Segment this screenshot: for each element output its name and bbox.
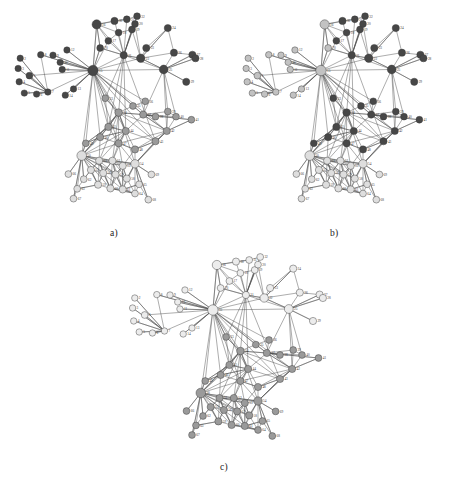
graph-node[interactable]: [254, 397, 262, 405]
graph-node[interactable]: [255, 427, 262, 434]
graph-node[interactable]: [330, 95, 337, 102]
graph-node[interactable]: [305, 151, 315, 161]
graph-node[interactable]: [164, 108, 171, 115]
graph-node[interactable]: [246, 412, 253, 419]
graph-node[interactable]: [132, 295, 138, 301]
graph-node[interactable]: [92, 20, 101, 29]
graph-node[interactable]: [159, 65, 168, 74]
graph-node[interactable]: [359, 146, 366, 153]
graph-node[interactable]: [325, 134, 332, 141]
graph-node[interactable]: [230, 394, 237, 401]
graph-node[interactable]: [391, 127, 398, 134]
graph-node[interactable]: [223, 334, 230, 341]
graph-node[interactable]: [167, 292, 173, 298]
graph-node[interactable]: [273, 89, 279, 95]
graph-node[interactable]: [115, 29, 122, 36]
graph-node[interactable]: [97, 45, 104, 52]
graph-node[interactable]: [370, 98, 377, 105]
graph-node[interactable]: [309, 317, 316, 324]
graph-node[interactable]: [183, 408, 190, 415]
graph-node[interactable]: [302, 185, 309, 192]
graph-node[interactable]: [140, 111, 147, 118]
graph-node[interactable]: [131, 160, 139, 168]
graph-node[interactable]: [254, 383, 261, 390]
graph-node[interactable]: [293, 171, 300, 178]
graph-node[interactable]: [62, 92, 68, 98]
graph-node[interactable]: [105, 37, 112, 44]
graph-node[interactable]: [371, 44, 378, 51]
graph-node[interactable]: [123, 175, 130, 182]
graph-node[interactable]: [45, 89, 51, 95]
graph-node[interactable]: [347, 186, 354, 193]
graph-node[interactable]: [143, 44, 150, 51]
graph-node[interactable]: [100, 169, 107, 176]
graph-node[interactable]: [26, 72, 33, 79]
graph-node[interactable]: [316, 65, 326, 75]
graph-node[interactable]: [95, 181, 102, 188]
graph-node[interactable]: [337, 157, 344, 164]
graph-node[interactable]: [189, 432, 196, 439]
graph-node[interactable]: [401, 113, 408, 120]
graph-node[interactable]: [289, 365, 296, 372]
graph-node[interactable]: [259, 418, 266, 425]
graph-node[interactable]: [226, 278, 233, 285]
graph-node[interactable]: [50, 52, 56, 58]
graph-node[interactable]: [109, 157, 116, 164]
graph-node[interactable]: [122, 127, 129, 134]
graph-node[interactable]: [88, 65, 98, 75]
graph-node[interactable]: [348, 52, 355, 59]
graph-node[interactable]: [257, 254, 264, 261]
graph-node[interactable]: [339, 17, 346, 24]
graph-node[interactable]: [16, 79, 22, 85]
graph-node[interactable]: [175, 299, 181, 305]
graph-node[interactable]: [308, 176, 315, 183]
graph-node[interactable]: [96, 157, 103, 164]
graph-node[interactable]: [290, 92, 296, 98]
graph-node[interactable]: [120, 52, 127, 59]
graph-node[interactable]: [208, 305, 218, 315]
graph-node[interactable]: [177, 306, 183, 312]
graph-node[interactable]: [202, 378, 209, 385]
graph-node[interactable]: [188, 116, 195, 123]
graph-node[interactable]: [119, 186, 126, 193]
graph-node[interactable]: [192, 55, 199, 62]
graph-node[interactable]: [200, 413, 207, 420]
graph-node[interactable]: [212, 260, 221, 269]
graph-node[interactable]: [315, 355, 322, 362]
graph-node[interactable]: [152, 138, 159, 145]
graph-node[interactable]: [33, 91, 39, 97]
graph-node[interactable]: [290, 347, 297, 354]
graph-node[interactable]: [154, 291, 160, 297]
graph-node[interactable]: [237, 347, 245, 355]
graph-node[interactable]: [277, 352, 284, 359]
graph-node[interactable]: [360, 190, 367, 197]
graph-node[interactable]: [180, 331, 186, 337]
graph-node[interactable]: [87, 166, 94, 173]
graph-node[interactable]: [237, 377, 244, 384]
graph-node[interactable]: [228, 421, 235, 428]
graph-node[interactable]: [163, 127, 170, 134]
graph-node[interactable]: [319, 294, 326, 301]
graph-node[interactable]: [196, 388, 206, 398]
graph-node[interactable]: [170, 49, 177, 56]
graph-node[interactable]: [340, 171, 347, 178]
graph-node[interactable]: [411, 78, 418, 85]
graph-node[interactable]: [269, 433, 276, 440]
graph-node[interactable]: [315, 166, 322, 173]
graph-node[interactable]: [136, 329, 142, 335]
graph-node[interactable]: [335, 185, 342, 192]
graph-node[interactable]: [74, 185, 81, 192]
graph-node[interactable]: [364, 181, 371, 188]
graph-node[interactable]: [152, 113, 159, 120]
graph-node[interactable]: [148, 171, 155, 178]
graph-node[interactable]: [131, 318, 137, 324]
graph-node[interactable]: [276, 375, 283, 382]
graph-node[interactable]: [272, 408, 279, 415]
graph-node[interactable]: [189, 325, 195, 331]
graph-node[interactable]: [328, 169, 335, 176]
graph-node[interactable]: [129, 305, 135, 311]
graph-node[interactable]: [298, 86, 304, 92]
graph-node[interactable]: [260, 294, 268, 302]
graph-node[interactable]: [398, 49, 405, 56]
graph-node[interactable]: [215, 418, 222, 425]
